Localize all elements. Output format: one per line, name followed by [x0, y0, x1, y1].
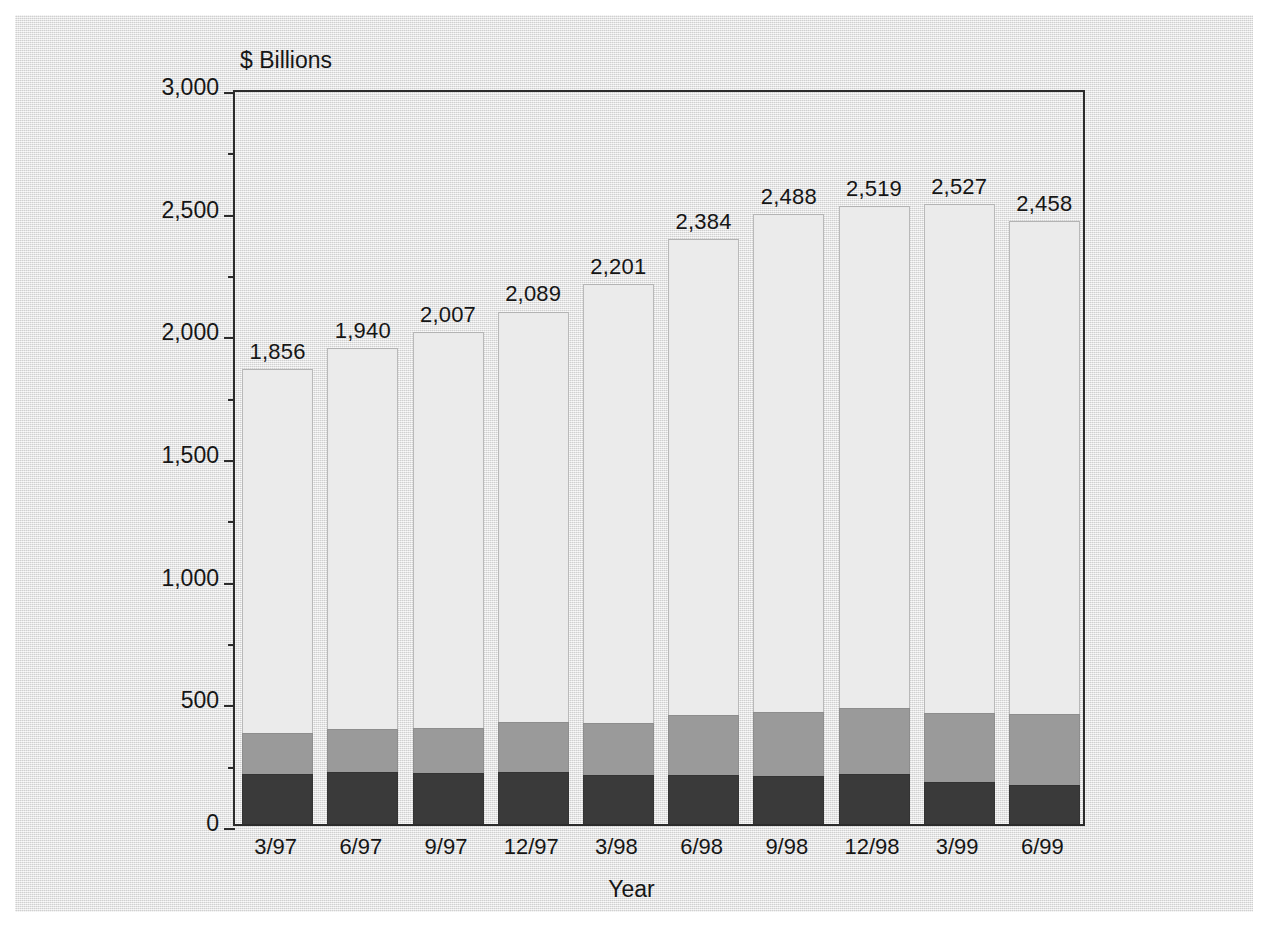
x-axis-title: Year: [0, 876, 1263, 903]
x-axis-tick-label: 6/97: [311, 834, 410, 860]
x-axis-tick-label: 3/98: [567, 834, 666, 860]
x-axis-tick-label: 9/97: [397, 834, 496, 860]
chart-page: $ Billions 1,8561,9402,0072,0892,2012,38…: [0, 0, 1263, 932]
x-axis-tick-label: 9/98: [737, 834, 836, 860]
x-axis-tick-label: 12/98: [823, 834, 922, 860]
x-axis-tick-label: 3/99: [908, 834, 1007, 860]
x-axis-tick-label: 6/98: [652, 834, 751, 860]
x-axis-tick-labels: 3/976/979/9712/973/986/989/9812/983/996/…: [0, 0, 1263, 932]
x-axis-tick-label: 6/99: [993, 834, 1092, 860]
x-axis-tick-label: 12/97: [482, 834, 581, 860]
x-axis-tick-label: 3/97: [226, 834, 325, 860]
